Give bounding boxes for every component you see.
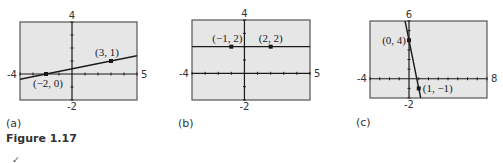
plot-area-b (192, 20, 310, 100)
panel-label-c: (c) (356, 116, 371, 129)
x-min-label-b: -4 (179, 68, 189, 79)
data-label-b: (−1, 2) (212, 32, 242, 45)
x-max-label-a: 5 (141, 69, 147, 80)
y-max-label-a: 4 (69, 10, 75, 21)
x-max-label-b: 5 (314, 68, 320, 79)
data-label-c: (1, −1) (423, 82, 453, 95)
y-min-label-c: -2 (404, 99, 414, 110)
chart-panel-b: (−1, 2)(2, 2)-454-2 (179, 8, 320, 112)
data-label-a: (−2, 0) (33, 77, 63, 90)
chart-panel-a: (−2, 0)(3, 1)-454-2 (7, 10, 147, 112)
data-label-c: (0, 4) (382, 34, 406, 47)
panel-label-b: (b) (178, 117, 194, 130)
y-min-label-a: -2 (67, 101, 77, 112)
y-min-label-b: -2 (239, 101, 249, 112)
chart-panel-c: (0, 4)(1, −1)-486-2 (357, 9, 497, 110)
checkmark-icon: ✓ (12, 155, 20, 163)
x-max-label-c: 8 (491, 73, 497, 84)
data-point-a (109, 59, 113, 63)
data-point-c (407, 38, 411, 42)
x-min-label-a: -4 (7, 69, 17, 80)
figure-plots: (−2, 0)(3, 1)-454-2(−1, 2)(2, 2)-454-2(0… (0, 0, 503, 130)
panel-label-a: (a) (6, 117, 21, 130)
x-min-label-c: -4 (357, 73, 367, 84)
data-label-b: (2, 2) (259, 32, 283, 45)
figure-caption: Figure 1.17 (6, 132, 77, 145)
data-point-b (229, 45, 233, 49)
data-label-a: (3, 1) (95, 46, 119, 59)
y-max-label-c: 6 (406, 9, 412, 20)
y-max-label-b: 4 (241, 8, 247, 19)
data-point-b (269, 45, 273, 49)
figure: (−2, 0)(3, 1)-454-2(−1, 2)(2, 2)-454-2(0… (0, 0, 503, 163)
data-point-c (417, 86, 421, 90)
data-point-a (44, 72, 48, 76)
